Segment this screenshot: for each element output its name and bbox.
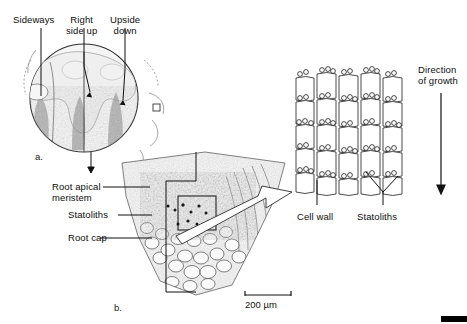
panel-a-illustration — [0, 0, 467, 324]
direction-of-growth-arrow-icon — [437, 93, 445, 194]
label-right-side-up: Right side up — [66, 14, 97, 36]
panel-a-letter: a. — [35, 151, 43, 162]
label-statoliths-c: Statoliths — [357, 211, 397, 222]
label-cell-wall: Cell wall — [297, 211, 333, 222]
panel-b-letter: b. — [114, 302, 122, 313]
label-root-apical-meristem: Root apical meristem — [52, 181, 101, 203]
figure-root-gravitropism: Sideways Right side up Upside down a. Ro… — [0, 0, 467, 324]
label-upside-down: Upside down — [110, 14, 140, 36]
square-marker-icon — [153, 104, 160, 111]
label-sideways: Sideways — [13, 14, 54, 25]
label-root-cap: Root cap — [68, 232, 107, 243]
label-direction-of-growth: Direction of growth — [418, 64, 458, 86]
scale-bar — [245, 291, 291, 296]
scale-bar-label: 200 µm — [245, 299, 277, 310]
label-statoliths-b: Statoliths — [68, 209, 108, 220]
